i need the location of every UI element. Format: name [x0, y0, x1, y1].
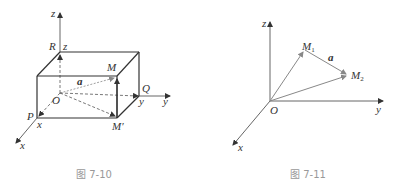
y-axis-label: y — [162, 95, 168, 107]
z-axis-label: z — [50, 7, 56, 19]
z-axis-label: z — [261, 17, 267, 29]
vector-om-prime — [60, 93, 115, 116]
x-axis-label: x — [19, 139, 25, 151]
vector-a — [60, 78, 114, 93]
y-axis-label: y — [375, 103, 381, 115]
point-q-label: Q — [142, 82, 150, 94]
vector-om1 — [270, 52, 303, 101]
r-coord-label: z — [62, 40, 68, 52]
point-m-label: M — [106, 61, 117, 73]
figure-caption: 图 7-10 — [76, 169, 112, 180]
diagram-canvas: z R z M a O Q y y P x M′ x 图 7-10 z M1 a… — [0, 0, 398, 182]
y-axis-dashed — [60, 93, 138, 96]
x-axis-label: x — [237, 141, 243, 153]
figure-7-10: z R z M a O Q y y P x M′ x 图 7-10 — [16, 7, 170, 180]
vector-a-label: a — [328, 51, 334, 63]
q-coord-label: y — [138, 95, 144, 107]
point-r-label: R — [48, 40, 56, 52]
vector-om2 — [270, 76, 346, 101]
p-coord-label: x — [36, 118, 42, 130]
point-m-prime-label: M′ — [111, 120, 124, 132]
figure-7-11: z M1 a M2 O y x 图 7-11 — [233, 17, 383, 180]
x-axis — [233, 101, 270, 145]
m1-sub: 1 — [311, 46, 315, 54]
point-m1-label: M1 — [301, 40, 315, 54]
point-m2-label: M2 — [350, 69, 364, 83]
point-p-label: P — [26, 110, 34, 122]
origin-label: O — [52, 94, 60, 106]
figure-caption: 图 7-11 — [290, 169, 326, 180]
vector-a-label: a — [77, 75, 83, 87]
m2-sub: 2 — [360, 75, 364, 83]
origin-label: O — [270, 104, 278, 116]
